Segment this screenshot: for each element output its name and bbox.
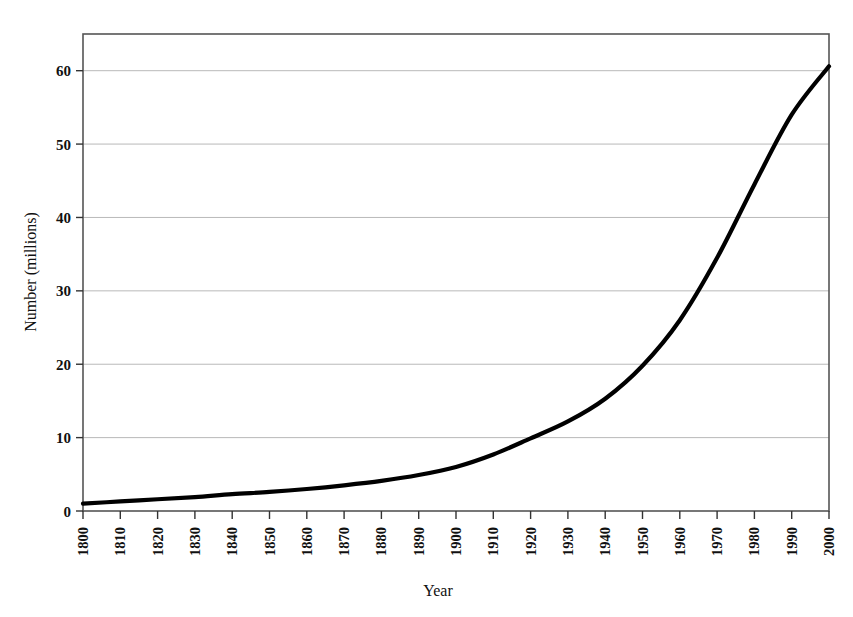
chart-background [0, 0, 853, 617]
x-tick-label-1910: 1910 [485, 527, 501, 556]
line-chart: 0102030405060 18001810182018301840185018… [0, 0, 853, 617]
x-tick-label-1870: 1870 [336, 527, 352, 556]
y-tick-label-10: 10 [56, 430, 71, 446]
x-tick-label-1960: 1960 [672, 527, 688, 556]
y-tick-label-40: 40 [56, 210, 71, 226]
x-tick-label-1820: 1820 [150, 527, 166, 556]
y-tick-label-50: 50 [56, 137, 71, 153]
y-tick-label-0: 0 [64, 504, 72, 520]
x-tick-label-2000: 2000 [821, 527, 837, 556]
x-tick-label-1840: 1840 [224, 527, 240, 556]
x-tick-label-1940: 1940 [597, 527, 613, 556]
x-tick-label-1800: 1800 [75, 527, 91, 556]
x-tick-label-1860: 1860 [299, 527, 315, 556]
x-tick-group [83, 511, 829, 519]
x-tick-label-1990: 1990 [784, 527, 800, 556]
y-tick-label-20: 20 [56, 357, 71, 373]
x-tick-label-1810: 1810 [112, 527, 128, 556]
x-tick-label-1930: 1930 [560, 527, 576, 556]
x-tick-label-1850: 1850 [262, 527, 278, 556]
x-tick-label-1950: 1950 [635, 527, 651, 556]
y-tick-label-30: 30 [56, 283, 71, 299]
x-tick-label-group: 1800181018201830184018501860187018801890… [75, 527, 837, 556]
x-tick-label-1880: 1880 [373, 527, 389, 556]
x-tick-label-1900: 1900 [448, 527, 464, 556]
x-tick-label-1970: 1970 [709, 527, 725, 556]
x-tick-label-1890: 1890 [411, 527, 427, 556]
x-tick-label-1980: 1980 [746, 527, 762, 556]
x-tick-label-1830: 1830 [187, 527, 203, 556]
y-tick-label-60: 60 [56, 63, 71, 79]
x-axis-title: Year [423, 582, 453, 599]
x-tick-label-1920: 1920 [523, 527, 539, 556]
chart-figure: 0102030405060 18001810182018301840185018… [0, 0, 853, 617]
y-axis-title: Number (millions) [22, 212, 40, 332]
